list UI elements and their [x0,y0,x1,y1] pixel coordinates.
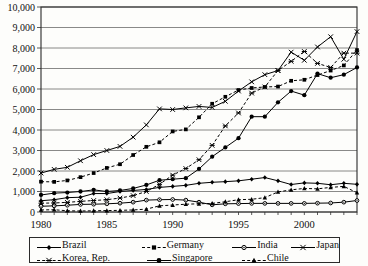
legend-label-chile: Chile [267,252,289,263]
x-axis-label: 1995 [228,219,249,230]
chart-legend: Brazil Germany India Japan Korea, Rep. [29,237,340,263]
y-axis-label: 2,000 [13,166,36,177]
x-axis-label: 1990 [162,219,183,230]
legend-item-germany: Germany [141,239,231,250]
brazil-marker-icon [36,239,62,250]
y-axis-label: 6,000 [13,84,36,95]
y-axis-label: 9,000 [13,22,36,33]
series-singapore [39,65,359,197]
series-chile [39,184,359,213]
singapore-marker-icon [146,252,172,263]
germany-marker-icon [141,239,167,250]
series-japan [39,29,360,175]
legend-label-india: India [257,239,278,250]
x-axis-label: 1980 [31,219,52,230]
chart-plot-area: 01,0002,0003,0004,0005,0006,0007,0008,00… [0,0,368,266]
legend-item-korea: Korea, Rep. [30,252,146,263]
japan-marker-icon [290,239,316,250]
legend-label-japan: Japan [316,239,339,250]
y-axis-label: 1,000 [13,186,36,197]
y-axis-label: 5,000 [13,104,36,115]
y-axis-label: 0 [30,207,35,218]
legend-item-japan: Japan [290,239,339,250]
y-axis-label: 8,000 [13,43,36,54]
legend-item-chile: Chile [241,252,289,263]
korea-marker-icon [36,252,62,263]
y-axis-label: 4,000 [13,125,36,136]
legend-label-brazil: Brazil [62,239,86,250]
legend-item-singapore: Singapore [146,252,241,263]
x-axis-label: 1985 [96,219,117,230]
chile-marker-icon [241,252,267,263]
series-brazil [39,175,359,203]
y-axis-label: 3,000 [13,145,36,156]
x-axis-label: 2000 [294,219,315,230]
y-axis-label: 10,000 [8,2,36,13]
line-chart: 01,0002,0003,0004,0005,0006,0007,0008,00… [0,0,368,266]
legend-label-korea: Korea, Rep. [62,252,110,263]
legend-row-1: Brazil Germany India Japan [30,238,339,251]
legend-label-germany: Germany [167,239,204,250]
legend-label-singapore: Singapore [172,252,213,263]
legend-item-india: India [231,239,290,250]
india-marker-icon [231,239,257,250]
y-axis-label: 7,000 [13,63,36,74]
legend-item-brazil: Brazil [30,239,141,250]
